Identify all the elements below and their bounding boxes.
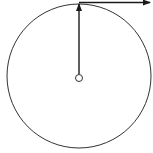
center-point xyxy=(76,75,83,82)
circular-motion-diagram xyxy=(0,0,153,153)
